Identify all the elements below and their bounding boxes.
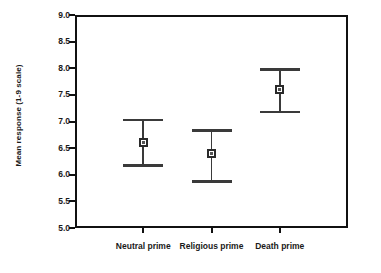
y-tick-label: 5.0 [10,224,70,233]
data-point-marker [139,138,148,147]
data-point-marker [207,149,216,158]
plot-area [75,15,348,228]
error-bar-cap-lower [192,180,232,183]
error-bar-chart: Mean response (1-9 scale) 9.08.58.07.57.… [0,0,381,273]
error-bar-cap-upper [192,129,232,132]
data-point-marker [275,85,284,94]
y-tick-label: 8.0 [10,64,70,73]
x-tick-mark [211,228,213,233]
x-tick-label: Death prime [220,241,340,252]
y-tick-label: 6.0 [10,170,70,179]
y-tick-label: 9.0 [10,11,70,20]
error-bar-cap-upper [123,119,163,122]
x-tick-mark [142,228,144,233]
y-tick-label: 7.5 [10,90,70,99]
error-bar-cap-upper [260,68,300,71]
y-tick-label: 6.5 [10,144,70,153]
x-tick-mark [279,228,281,233]
y-tick-label: 8.5 [10,37,70,46]
y-tick-label: 7.0 [10,117,70,126]
error-bar-cap-lower [123,164,163,167]
y-tick-label: 5.5 [10,197,70,206]
error-bar-cap-lower [260,111,300,114]
